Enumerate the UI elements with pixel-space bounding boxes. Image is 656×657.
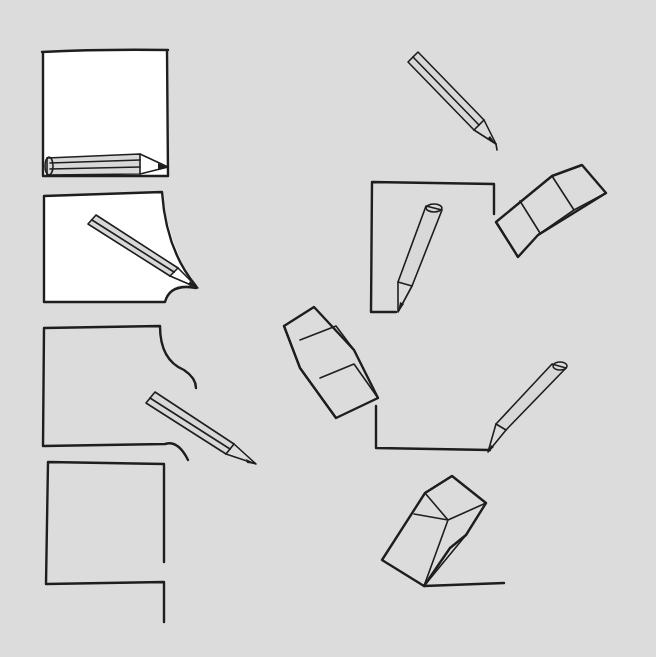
outline-with-pencil [371,182,494,312]
pencil-top [408,52,497,150]
pencil-icon [146,392,256,464]
frame-4 [46,462,164,622]
pencil-lower-right [488,362,567,452]
frame-1 [42,50,168,176]
sketch-canvas [0,0,656,657]
eraser-upper [496,165,606,257]
eraser-bottom [382,476,504,586]
eraser-middle [284,307,378,418]
frame-2 [44,192,198,302]
frame-3 [43,326,256,464]
outline-lower [376,406,490,450]
pencil-icon [398,204,442,312]
sketch-drawing [0,0,656,657]
